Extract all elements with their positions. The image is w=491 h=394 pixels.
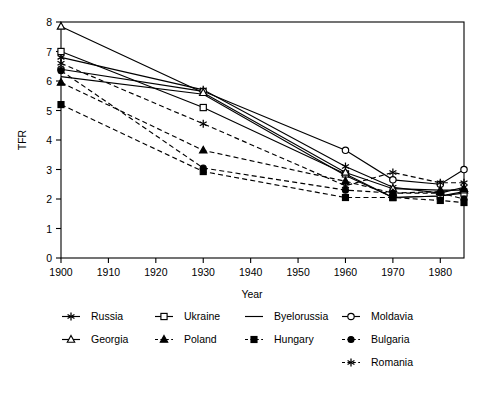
data-point-marker	[348, 313, 354, 319]
y-tick-label: 8	[46, 16, 52, 28]
data-point-marker	[348, 337, 354, 343]
x-tick-label: 1920	[144, 266, 168, 278]
data-point-marker	[461, 196, 467, 202]
data-point-marker	[251, 337, 257, 343]
data-point-marker	[200, 165, 206, 171]
data-point-marker	[342, 195, 348, 201]
legend-label: Poland	[184, 333, 217, 345]
data-point-marker	[58, 68, 64, 74]
data-point-marker	[58, 48, 64, 54]
legend-label: Moldavia	[371, 310, 413, 322]
x-tick-label: 1980	[429, 266, 453, 278]
tfr-line-chart: 190019101920193019401950196019701980 012…	[0, 0, 491, 394]
data-point-marker	[390, 177, 396, 183]
x-tick-label: 1960	[334, 266, 358, 278]
x-tick-label: 1930	[192, 266, 216, 278]
x-tick-label: 1910	[97, 266, 121, 278]
y-tick-label: 2	[46, 193, 52, 205]
data-point-marker	[200, 104, 206, 110]
y-tick-label: 0	[46, 252, 52, 264]
y-tick-label: 3	[46, 164, 52, 176]
x-tick-label: 1950	[286, 266, 310, 278]
x-tick-label: 1940	[239, 266, 263, 278]
legend-label: Romania	[371, 356, 413, 368]
y-tick-label: 6	[46, 75, 52, 87]
data-point-marker	[342, 147, 348, 153]
x-tick-label: 1970	[381, 266, 405, 278]
legend-label: Hungary	[274, 333, 314, 345]
data-point-marker	[437, 190, 443, 196]
y-tick-label: 4	[46, 134, 52, 146]
data-point-marker	[58, 102, 64, 108]
x-tick-label: 1900	[49, 266, 73, 278]
y-tick-label: 1	[46, 223, 52, 235]
x-axis-label: Year	[241, 288, 263, 300]
legend-label: Georgia	[91, 333, 129, 345]
legend-label: Byelorussia	[274, 310, 328, 322]
y-axis-label: TFR	[16, 129, 28, 150]
y-tick-label: 5	[46, 105, 52, 117]
chart-figure: 190019101920193019401950196019701980 012…	[0, 0, 491, 394]
legend-label: Russia	[91, 310, 123, 322]
data-point-marker	[161, 313, 167, 319]
data-point-marker	[437, 197, 443, 203]
data-point-marker	[390, 190, 396, 196]
legend-label: Bulgaria	[371, 333, 410, 345]
data-point-marker	[461, 166, 467, 172]
y-tick-label: 7	[46, 46, 52, 58]
legend-label: Ukraine	[184, 310, 220, 322]
